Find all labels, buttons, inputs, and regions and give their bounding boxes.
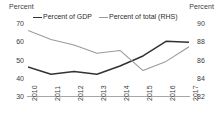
right-axis-tick-90: 90 (193, 20, 217, 28)
series-line-percent-of-gdp (28, 41, 189, 74)
left-axis-tick-40: 40 (0, 75, 24, 83)
x-axis-tick-2015: 2015 (146, 85, 154, 101)
right-axis-tick-88: 88 (193, 38, 217, 46)
plot-area (28, 18, 189, 97)
x-axis-tick-2010: 2010 (31, 85, 39, 101)
left-axis-unit-label: Percent (9, 3, 34, 10)
left-axis-tick-30: 30 (0, 93, 24, 101)
left-axis-tick-50: 50 (0, 57, 24, 65)
right-axis-tick-84: 84 (193, 75, 217, 83)
chart-container: Percent Percent Percent of GDP Percent o… (0, 0, 217, 137)
x-axis-tick-2013: 2013 (100, 85, 108, 101)
x-axis-tick-2012: 2012 (77, 85, 85, 101)
right-axis-unit-label: Percent (189, 3, 214, 10)
x-axis-tick-2011: 2011 (54, 86, 62, 101)
left-axis-tick-60: 60 (0, 38, 24, 46)
x-axis-tick-2017: 2017 (192, 85, 200, 101)
x-axis-tick-2014: 2014 (123, 85, 131, 101)
x-axis-tick-2016: 2016 (169, 85, 177, 101)
x-axis-baseline (27, 96, 190, 97)
left-axis-tick-70: 70 (0, 20, 24, 28)
plot-svg (28, 18, 189, 97)
series-line-percent-of-total (28, 30, 189, 70)
right-axis-tick-86: 86 (193, 57, 217, 65)
